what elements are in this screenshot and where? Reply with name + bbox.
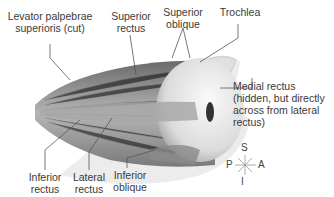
label-trochlea: Trochlea bbox=[218, 6, 262, 18]
cornea bbox=[206, 102, 214, 122]
compass-anterior: A bbox=[258, 159, 265, 170]
compass-rose bbox=[235, 155, 256, 175]
label-lateral-rectus: Lateral rectus bbox=[70, 171, 108, 195]
label-medial-rectus: Medial rectus (hidden, but directly acro… bbox=[233, 80, 325, 128]
label-superior-rectus: Superior rectus bbox=[108, 10, 154, 34]
compass-posterior: P bbox=[226, 159, 233, 170]
eye-muscles-diagram: Levator palpebrae superioris (cut) Super… bbox=[0, 0, 334, 197]
compass-inferior: I bbox=[241, 176, 244, 187]
label-inferior-rectus: Inferior rectus bbox=[24, 171, 66, 195]
label-inferior-oblique: Inferior oblique bbox=[110, 169, 150, 193]
label-levator-palpebrae: Levator palpebrae superioris (cut) bbox=[4, 10, 96, 34]
compass-superior: S bbox=[241, 142, 248, 153]
label-superior-oblique: Superior oblique bbox=[160, 6, 206, 30]
